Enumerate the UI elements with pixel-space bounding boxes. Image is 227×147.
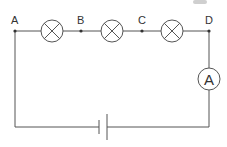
lamp-1 — [41, 20, 63, 42]
junction-b — [79, 29, 82, 32]
junction-a — [13, 29, 16, 32]
label-a: A — [11, 14, 19, 26]
wires — [15, 31, 209, 127]
junction-d — [207, 29, 210, 32]
junction-c — [140, 29, 143, 32]
ammeter-label: A — [204, 71, 214, 88]
battery — [99, 114, 107, 140]
label-c: C — [138, 14, 146, 26]
circuit-diagram: A B C D A — [0, 0, 227, 147]
circuit-svg: A B C D A — [0, 0, 227, 147]
lamp-3 — [161, 20, 183, 42]
ammeter: A — [198, 68, 220, 90]
label-d: D — [205, 14, 213, 26]
corner-artifact — [193, 0, 207, 4]
lamp-2 — [101, 20, 123, 42]
label-b: B — [77, 14, 84, 26]
